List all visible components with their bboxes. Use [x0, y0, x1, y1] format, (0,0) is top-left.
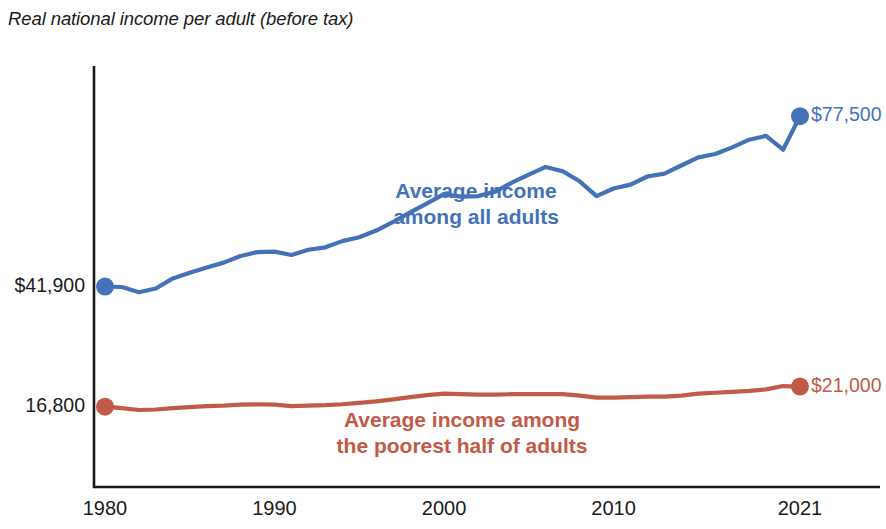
start-dot-poorest-half — [96, 398, 114, 416]
series-annotation-all-adults-line2: among all adults — [393, 204, 559, 230]
endpoint-label-all-adults: $77,500 — [811, 103, 882, 126]
start-dot-all-adults — [96, 278, 114, 296]
endpoint-label-poorest-half: $21,000 — [811, 374, 882, 397]
series-annotation-all-adults-line1: Average income — [393, 178, 559, 204]
series-annotation-poorest-half-line1: Average income among — [337, 407, 588, 433]
x-axis-tick-label-2021: 2021 — [778, 497, 823, 520]
end-dot-poorest-half — [791, 378, 809, 396]
x-axis-tick-label-1980: 1980 — [83, 497, 128, 520]
x-axis-tick-label-2000: 2000 — [422, 497, 467, 520]
x-axis-tick-label-2010: 2010 — [591, 497, 636, 520]
series-annotation-all-adults: Average income among all adults — [393, 178, 559, 229]
series-annotation-poorest-half-line2: the poorest half of adults — [337, 433, 588, 459]
y-axis-tick-label-lower: 16,800 — [0, 394, 85, 417]
series-annotation-poorest-half: Average income among the poorest half of… — [337, 407, 588, 458]
income-chart-figure: Real national income per adult (before t… — [0, 0, 886, 529]
end-dot-all-adults — [791, 107, 809, 125]
x-axis-tick-label-1990: 1990 — [252, 497, 297, 520]
y-axis-tick-label-upper: $41,900 — [0, 274, 85, 297]
